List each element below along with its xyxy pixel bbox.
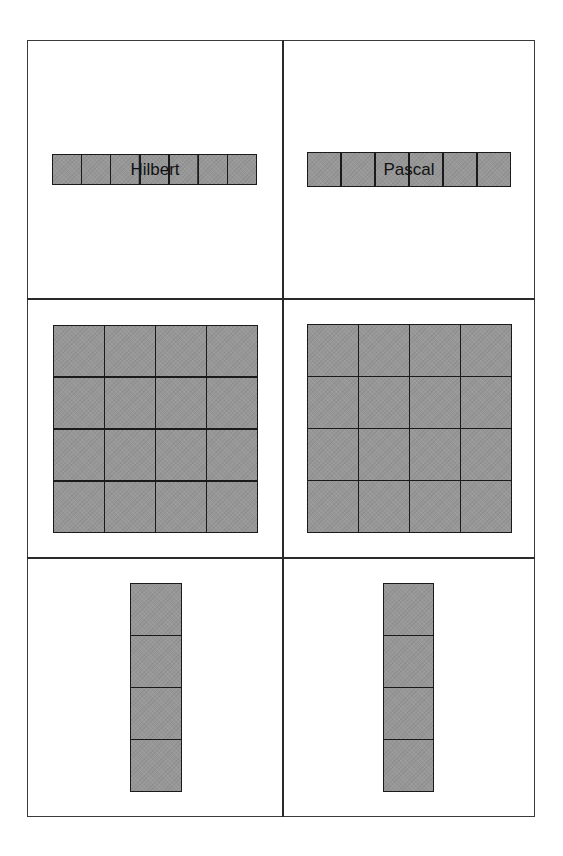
matrix-cell [54, 482, 104, 532]
matrix-cell [199, 155, 227, 184]
matrix-cell [207, 326, 257, 376]
matrix-cell [156, 378, 206, 428]
matrix-cell [54, 430, 104, 480]
matrix-cell [141, 155, 169, 184]
matrix-cell [410, 377, 460, 428]
matrix-cell [461, 429, 511, 480]
panel-hilbert-square [53, 325, 258, 533]
panel-hilbert-strip [52, 154, 257, 185]
matrix-cell [308, 377, 358, 428]
matrix-cell [359, 481, 409, 532]
matrix-cell [359, 429, 409, 480]
matrix-cell [384, 740, 433, 791]
matrix-cell [410, 481, 460, 532]
matrix-cell [410, 153, 442, 186]
matrix-cell [207, 482, 257, 532]
matrix-cell [308, 153, 340, 186]
matrix-cell [228, 155, 256, 184]
row-divider-1 [27, 298, 535, 300]
matrix-cell [359, 377, 409, 428]
matrix-cell [131, 636, 181, 687]
matrix-cell [384, 636, 433, 687]
matrix-cell [131, 740, 181, 791]
matrix-cell [170, 155, 198, 184]
matrix-cell [308, 325, 358, 376]
matrix-cell [105, 326, 155, 376]
panel-pascal-strip [307, 152, 511, 187]
matrix-cell [461, 481, 511, 532]
matrix-cell [54, 326, 104, 376]
matrix-cell [131, 688, 181, 739]
matrix-cell [376, 153, 408, 186]
matrix-cell [156, 326, 206, 376]
row-divider-2 [27, 557, 535, 559]
matrix-cell [54, 378, 104, 428]
matrix-cell [156, 430, 206, 480]
matrix-cell [444, 153, 476, 186]
matrix-cell [111, 155, 139, 184]
matrix-cell [308, 429, 358, 480]
matrix-cell [105, 482, 155, 532]
panel-pascal-square [307, 324, 512, 533]
matrix-cell [342, 153, 374, 186]
matrix-cell [131, 584, 181, 635]
matrix-cell [461, 377, 511, 428]
panel-hilbert-column [130, 583, 182, 792]
matrix-cell [156, 482, 206, 532]
matrix-cell [207, 378, 257, 428]
matrix-cell [82, 155, 110, 184]
matrix-cell [105, 430, 155, 480]
matrix-cell [308, 481, 358, 532]
matrix-cell [461, 325, 511, 376]
matrix-cell [384, 688, 433, 739]
matrix-cell [478, 153, 510, 186]
column-divider [282, 40, 284, 817]
matrix-cell [359, 325, 409, 376]
matrix-cell [53, 155, 81, 184]
matrix-cell [384, 584, 433, 635]
matrix-cell [207, 430, 257, 480]
matrix-cell [105, 378, 155, 428]
matrix-cell [410, 429, 460, 480]
matrix-cell [410, 325, 460, 376]
panel-pascal-column [383, 583, 434, 792]
